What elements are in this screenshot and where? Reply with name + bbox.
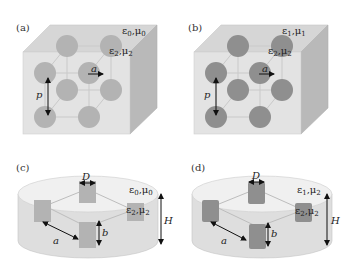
a-label: a — [91, 63, 97, 74]
a-label: a — [262, 63, 268, 74]
figure-canvas: (a) a p ε0 — [0, 0, 360, 273]
panel-b: (b) a p ε1,μ1 ε2,μ2 — [188, 22, 328, 134]
d-label: D — [81, 171, 90, 182]
p-label: p — [36, 89, 43, 100]
panel-label: (c) — [16, 162, 30, 173]
b-label: b — [271, 228, 277, 239]
panel-c: (c) D H b a ε0,μ0 ε2,μ2 — [16, 162, 173, 258]
a-label: a — [53, 235, 59, 246]
a-label: a — [221, 235, 227, 246]
panel-label: (b) — [188, 22, 202, 33]
b-label: b — [102, 227, 108, 238]
panel-label: (d) — [191, 162, 205, 173]
panel-a: (a) a p ε0 — [16, 22, 157, 134]
d-label: D — [251, 170, 260, 181]
panel-label: (a) — [16, 22, 30, 33]
h-label: H — [330, 215, 340, 226]
p-label: p — [204, 89, 211, 100]
h-label: H — [163, 215, 173, 226]
panel-d: (d) D H b a ε1,μ2 ε2,μ2 — [191, 162, 340, 258]
